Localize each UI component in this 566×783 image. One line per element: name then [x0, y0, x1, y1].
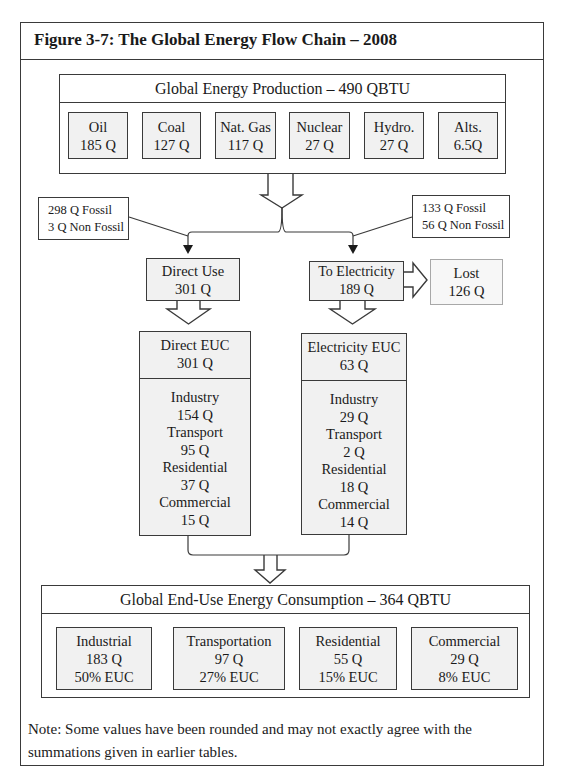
source-value: 185 Q [80, 136, 116, 154]
sector-value: 95 Q [140, 442, 250, 460]
note-line: Note: Some values have been rounded and … [28, 718, 538, 741]
note-line: summations given in earlier tables. [28, 741, 538, 764]
sector-name: Residential [302, 461, 406, 479]
direct-euc-box: Direct EUC 301 Q Industry 154 Q Transpor… [139, 331, 251, 536]
direct-split-callout: 298 Q Fossil 3 Q Non Fossil [38, 197, 129, 240]
sector-value: 154 Q [140, 407, 250, 425]
euc-value: 301 Q [140, 354, 250, 372]
sector-name: Industrial [76, 632, 132, 650]
flow-value: 189 Q [339, 281, 374, 299]
direct-euc-header: Direct EUC 301 Q [140, 332, 250, 379]
euc-label: Direct EUC [140, 336, 250, 354]
euc-label: Electricity EUC [302, 338, 406, 356]
sector-share: 27% EUC [199, 668, 258, 686]
source-value: 27 Q [380, 136, 409, 154]
sector-share: 8% EUC [439, 668, 491, 686]
flow-value: 126 Q [449, 282, 485, 300]
euc-value: 63 Q [302, 356, 406, 374]
direct-euc-sectors: Industry 154 Q Transport 95 Q Residentia… [140, 379, 250, 529]
end-use-commercial: Commercial 29 Q 8% EUC [411, 627, 518, 690]
electricity-euc-sectors: Industry 29 Q Transport 2 Q Residential … [302, 381, 406, 531]
end-use-header: Global End-Use Energy Consumption – 364 … [42, 586, 529, 614]
source-name: Hydro. [374, 118, 415, 136]
source-hydro: Hydro. 27 Q [364, 112, 424, 159]
sector-name: Commercial [140, 494, 250, 512]
sector-name: Commercial [302, 496, 406, 514]
to-electricity-box: To Electricity 189 Q [309, 261, 404, 301]
flow-label: Direct Use [162, 262, 224, 280]
direct-use-box: Direct Use 301 Q [146, 258, 240, 301]
electricity-euc-header: Electricity EUC 63 Q [302, 334, 406, 381]
sector-value: 2 Q [302, 444, 406, 462]
source-name: Oil [89, 118, 108, 136]
sector-share: 50% EUC [74, 668, 133, 686]
sector-name: Industry [302, 391, 406, 409]
end-use-industrial: Industrial 183 Q 50% EUC [56, 627, 152, 690]
sector-value: 29 Q [302, 409, 406, 427]
sector-value: 97 Q [215, 650, 244, 668]
electricity-down-arrow-icon [330, 300, 375, 324]
source-name: Nat. Gas [220, 118, 271, 136]
end-use-transportation: Transportation 97 Q 27% EUC [173, 627, 285, 690]
sector-value: 183 Q [86, 650, 122, 668]
sector-value: 15 Q [140, 512, 250, 530]
source-value: 27 Q [305, 136, 334, 154]
sector-name: Transportation [187, 632, 272, 650]
sector-value: 37 Q [140, 477, 250, 495]
sector-value: 14 Q [302, 514, 406, 532]
production-down-arrow-icon [261, 173, 302, 208]
electricity-arrowhead-icon [348, 245, 358, 254]
lost-box: Lost 126 Q [430, 259, 503, 305]
lost-right-arrow-icon [403, 263, 427, 297]
flow-label: Lost [454, 264, 480, 282]
sector-name: Residential [315, 632, 380, 650]
callout-line: 298 Q Fossil [48, 202, 128, 219]
source-nuclear: Nuclear 27 Q [289, 112, 350, 159]
sector-name: Industry [140, 389, 250, 407]
sector-name: Commercial [429, 632, 501, 650]
source-value: 127 Q [154, 136, 190, 154]
electricity-split-callout: 133 Q Fossil 56 Q Non Fossil [412, 195, 510, 238]
sector-name: Transport [140, 424, 250, 442]
callout-line: 3 Q Non Fossil [48, 219, 128, 236]
sector-name: Transport [302, 426, 406, 444]
sector-value: 18 Q [302, 479, 406, 497]
direct-use-down-arrow-icon [167, 300, 210, 324]
flow-label: To Electricity [318, 263, 394, 281]
source-coal: Coal 127 Q [142, 112, 201, 159]
callout-line: 56 Q Non Fossil [422, 217, 509, 234]
figure-note: Note: Some values have been rounded and … [28, 718, 538, 764]
production-header: Global Energy Production – 490 QBTU [60, 75, 505, 103]
source-oil: Oil 185 Q [68, 112, 128, 159]
sector-value: 55 Q [334, 650, 363, 668]
end-use-down-arrow-icon [255, 555, 285, 583]
sector-share: 15% EUC [318, 668, 377, 686]
sector-name: Residential [140, 459, 250, 477]
end-use-residential: Residential 55 Q 15% EUC [299, 627, 397, 690]
sector-value: 29 Q [450, 650, 479, 668]
source-value: 117 Q [228, 136, 263, 154]
callout-line: 133 Q Fossil [422, 200, 509, 217]
electricity-euc-box: Electricity EUC 63 Q Industry 29 Q Trans… [301, 333, 407, 535]
source-name: Coal [158, 118, 185, 136]
flow-value: 301 Q [175, 280, 211, 298]
source-name: Alts. [454, 118, 482, 136]
source-nat-gas: Nat. Gas 117 Q [215, 112, 276, 159]
source-name: Nuclear [297, 118, 343, 136]
direct-arrowhead-icon [183, 245, 193, 254]
source-alts: Alts. 6.5Q [438, 112, 498, 159]
source-value: 6.5Q [454, 136, 483, 154]
